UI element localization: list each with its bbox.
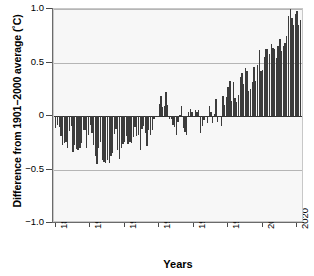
x-tick-mark [89,223,90,227]
x-tick-mark [158,223,159,227]
y-tick-mark [46,169,52,170]
y-tick-mark [46,222,52,223]
bar-series [54,9,302,221]
x-tick-mark [227,223,228,227]
bar [215,99,216,116]
temperature-anomaly-chart: Difference from 1901−2000 average (˚C) 1… [0,0,314,276]
bar [217,116,218,122]
y-tick-mark [46,62,52,63]
y-tick-label: −0.5 [4,164,44,174]
bar [157,116,158,117]
bar [186,116,187,135]
bar [212,116,213,123]
bar [177,116,178,122]
bar [207,116,208,123]
x-tick-mark [55,223,56,227]
x-tick-mark [193,223,194,227]
y-tick-label: 1.0 [4,3,44,13]
y-tick-mark [46,8,52,9]
y-tick-label: 0.5 [4,57,44,67]
x-tick-mark [296,223,297,227]
bar [167,105,168,116]
x-axis-title: Years [53,258,303,270]
y-tick-label: 0 [4,110,44,120]
y-tick-label: −1.0 [4,217,44,227]
bar [221,116,222,126]
x-tick-mark [124,223,125,227]
bar [193,116,194,117]
bar [302,9,303,116]
x-tick-mark [262,223,263,227]
y-tick-mark [46,115,52,116]
bar [181,106,182,116]
plot-area [53,8,303,222]
